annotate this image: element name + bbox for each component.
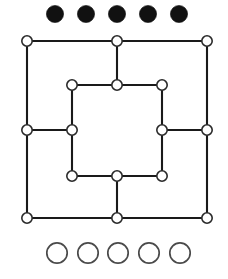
board-point-inner-top-right[interactable] <box>157 80 167 90</box>
black-pieces-row <box>46 5 187 22</box>
morris-board-canvas <box>0 0 228 279</box>
black-piece-1[interactable] <box>46 5 63 22</box>
board-point-outer-middle-left[interactable] <box>22 125 32 135</box>
board-point-outer-top-right[interactable] <box>202 36 212 46</box>
board-point-inner-bottom-right[interactable] <box>157 171 167 181</box>
white-piece-3[interactable] <box>108 243 128 263</box>
board-point-inner-top-left[interactable] <box>67 80 77 90</box>
board-point-outer-bottom-left[interactable] <box>22 213 32 223</box>
black-piece-3[interactable] <box>108 5 125 22</box>
board-point-inner-bottom-middle[interactable] <box>112 171 122 181</box>
white-piece-2[interactable] <box>78 243 98 263</box>
board-point-outer-bottom-right[interactable] <box>202 213 212 223</box>
board-point-outer-top-middle[interactable] <box>112 36 122 46</box>
board-point-outer-middle-right[interactable] <box>202 125 212 135</box>
board-point-inner-middle-right[interactable] <box>157 125 167 135</box>
board-point-outer-bottom-middle[interactable] <box>112 213 122 223</box>
white-pieces-row <box>47 243 190 263</box>
black-piece-5[interactable] <box>170 5 187 22</box>
board-edges-layer <box>27 41 207 218</box>
board-point-inner-top-middle[interactable] <box>112 80 122 90</box>
black-piece-2[interactable] <box>77 5 94 22</box>
morris-board-figure <box>0 0 228 279</box>
board-point-outer-top-left[interactable] <box>22 36 32 46</box>
black-piece-4[interactable] <box>139 5 156 22</box>
board-point-inner-bottom-left[interactable] <box>67 171 77 181</box>
white-piece-5[interactable] <box>170 243 190 263</box>
board-point-inner-middle-left[interactable] <box>67 125 77 135</box>
white-piece-1[interactable] <box>47 243 67 263</box>
white-piece-4[interactable] <box>139 243 159 263</box>
